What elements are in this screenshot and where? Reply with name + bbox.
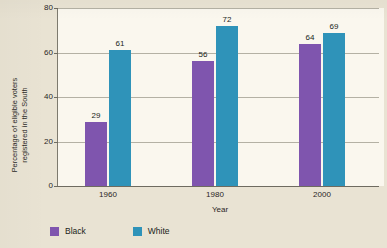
x-axis-title: Year — [57, 205, 383, 214]
y-tick-label-40: 40 — [31, 93, 53, 101]
y-tick-label-60: 60 — [31, 49, 53, 57]
y-axis-tick-labels: 80 60 40 20 0 — [28, 0, 53, 248]
bar-value-2000-white: 69 — [330, 23, 339, 31]
legend-swatch-black-icon — [50, 227, 59, 236]
y-tick-label-0: 0 — [31, 182, 53, 190]
plot-area: 29 61 56 72 64 69 — [57, 8, 384, 186]
bar-1980-white[interactable]: 72 — [216, 26, 238, 186]
x-tick-label-1960: 1960 — [88, 190, 128, 199]
bar-value-2000-black: 64 — [306, 34, 315, 42]
y-tickmark-80 — [54, 8, 58, 9]
bar-1980-black[interactable]: 56 — [192, 61, 214, 186]
x-tick-label-2000: 2000 — [302, 190, 342, 199]
bar-chart-figure: Percentage of eligible voters registered… — [0, 0, 387, 248]
axis-baseline-0 — [58, 186, 379, 187]
legend-swatch-white-icon — [133, 227, 142, 236]
y-tickmark-40 — [54, 97, 58, 98]
bar-2000-white[interactable]: 69 — [323, 33, 345, 187]
y-tickmark-20 — [54, 142, 58, 143]
legend-entry-white[interactable]: White — [133, 227, 170, 236]
y-tickmark-0 — [54, 186, 58, 187]
bar-1960-black[interactable]: 29 — [85, 122, 107, 187]
legend-label-black: Black — [65, 227, 86, 236]
bar-1960-white[interactable]: 61 — [109, 50, 131, 186]
bar-value-1980-white: 72 — [223, 16, 232, 24]
legend-label-white: White — [148, 227, 170, 236]
y-tickmark-60 — [54, 53, 58, 54]
y-tick-label-80: 80 — [31, 4, 53, 12]
bar-value-1980-black: 56 — [199, 51, 208, 59]
bar-2000-black[interactable]: 64 — [299, 44, 321, 186]
bar-value-1960-white: 61 — [116, 40, 125, 48]
bar-value-1960-black: 29 — [92, 112, 101, 120]
y-tick-label-20: 20 — [31, 138, 53, 146]
gridline-80 — [58, 8, 379, 9]
chart-legend: Black White — [50, 227, 170, 236]
x-tick-label-1980: 1980 — [195, 190, 235, 199]
legend-entry-black[interactable]: Black — [50, 227, 86, 236]
y-axis-title-line-1: Percentage of eligible voters — [10, 40, 20, 210]
